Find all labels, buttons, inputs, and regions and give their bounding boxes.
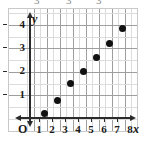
arrow-left-icon [15, 115, 21, 121]
arrow-right-icon [130, 115, 136, 121]
data-point [106, 40, 113, 47]
gridline-major-vertical [60, 9, 61, 131]
gridline-minor-vertical [27, 9, 28, 131]
x-axis-line [21, 117, 131, 119]
data-point [80, 68, 87, 75]
gridline-major-vertical [73, 9, 74, 131]
data-point [54, 97, 61, 104]
gridline-minor-vertical [66, 9, 67, 131]
x-axis-tick-label: 6 [99, 124, 110, 135]
y-axis-tick-label: 2 [16, 65, 25, 76]
data-point [119, 25, 126, 32]
data-point [93, 54, 100, 61]
origin-label: O [18, 123, 27, 135]
gridline-minor-vertical [92, 9, 93, 131]
gridline-minor-vertical [131, 9, 132, 131]
gridline-major-vertical [99, 9, 100, 131]
bleed-fragment: 3 [96, 0, 102, 6]
bleed-fragment: 3 [34, 0, 40, 6]
plot-area [8, 8, 138, 132]
y-axis-tick [3, 47, 7, 48]
data-point [67, 80, 74, 87]
bleed-fragment: 3 [66, 0, 72, 6]
y-axis-line [29, 18, 31, 122]
top-bleed-text-fragments: 3 3 3 [0, 0, 146, 8]
x-axis-tick-label: 4 [73, 124, 84, 135]
x-axis-tick-label: 3 [60, 124, 71, 135]
arrow-down-icon [27, 121, 33, 127]
x-axis-tick-label: 5 [86, 124, 97, 135]
y-axis-tick [3, 94, 7, 95]
gridline-minor-vertical [105, 9, 106, 131]
gridline-major-vertical [112, 9, 113, 131]
y-axis-tick-label: 1 [16, 89, 25, 100]
y-axis-tick [3, 71, 7, 72]
gridline-minor-vertical [53, 9, 54, 131]
x-axis-tick [39, 118, 40, 122]
x-axis-tick [65, 118, 66, 122]
y-axis-tick-label: 3 [16, 42, 25, 53]
x-axis-tick [104, 118, 105, 122]
x-axis-tick-label: 1 [34, 124, 45, 135]
x-axis-tick [117, 118, 118, 122]
x-axis-label: x [133, 123, 139, 135]
coordinate-grid-screenshot: 3 3 3 [0, 0, 146, 144]
x-axis-tick-label: 2 [47, 124, 58, 135]
gridline-major-vertical [34, 9, 35, 131]
x-axis-tick-label: 7 [112, 124, 123, 135]
x-axis-tick [52, 118, 53, 122]
y-axis-label: y [32, 13, 37, 25]
x-axis-tick [91, 118, 92, 122]
y-axis-tick-label: 4 [16, 19, 25, 30]
y-axis-tick [3, 24, 7, 25]
x-axis-tick [78, 118, 79, 122]
